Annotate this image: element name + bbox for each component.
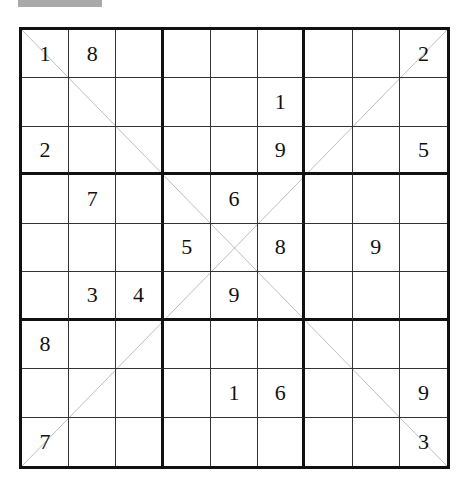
sudoku-cell-r7c5[interactable] — [211, 321, 258, 369]
sudoku-cell-r3c7[interactable] — [305, 127, 352, 175]
sudoku-cell-r5c7[interactable] — [305, 224, 352, 272]
sudoku-cell-r4c6[interactable] — [258, 175, 305, 223]
sudoku-cell-r7c9[interactable] — [400, 321, 447, 369]
sudoku-board: 182129576589349816973 — [19, 27, 450, 469]
sudoku-cell-r1c6[interactable] — [258, 30, 305, 78]
sudoku-cell-r8c8[interactable] — [353, 369, 400, 417]
sudoku-cell-r8c2[interactable] — [69, 369, 116, 417]
sudoku-cell-r8c6[interactable]: 6 — [258, 369, 305, 417]
sudoku-cell-r1c2[interactable]: 8 — [69, 30, 116, 78]
sudoku-cell-r7c3[interactable] — [116, 321, 163, 369]
sudoku-cell-r2c4[interactable] — [164, 78, 211, 126]
sudoku-cell-r9c8[interactable] — [353, 418, 400, 466]
sudoku-cell-r5c3[interactable] — [116, 224, 163, 272]
sudoku-cell-r6c8[interactable] — [353, 272, 400, 320]
sudoku-cell-r3c9[interactable]: 5 — [400, 127, 447, 175]
sudoku-cell-r8c4[interactable] — [164, 369, 211, 417]
sudoku-cell-r4c1[interactable] — [22, 175, 69, 223]
sudoku-cell-r1c3[interactable] — [116, 30, 163, 78]
sudoku-cell-r6c7[interactable] — [305, 272, 352, 320]
sudoku-cell-r4c7[interactable] — [305, 175, 352, 223]
sudoku-cell-r1c5[interactable] — [211, 30, 258, 78]
sudoku-cell-r7c1[interactable]: 8 — [22, 321, 69, 369]
sudoku-grid: 182129576589349816973 — [22, 30, 447, 466]
sudoku-cell-r6c5[interactable]: 9 — [211, 272, 258, 320]
sudoku-cell-r8c5[interactable]: 1 — [211, 369, 258, 417]
sudoku-cell-r2c7[interactable] — [305, 78, 352, 126]
sudoku-cell-r9c7[interactable] — [305, 418, 352, 466]
sudoku-cell-r6c9[interactable] — [400, 272, 447, 320]
sudoku-cell-r9c9[interactable]: 3 — [400, 418, 447, 466]
sudoku-cell-r5c9[interactable] — [400, 224, 447, 272]
sudoku-cell-r5c8[interactable]: 9 — [353, 224, 400, 272]
sudoku-cell-r3c1[interactable]: 2 — [22, 127, 69, 175]
sudoku-cell-r7c7[interactable] — [305, 321, 352, 369]
sudoku-cell-r2c6[interactable]: 1 — [258, 78, 305, 126]
sudoku-cell-r2c3[interactable] — [116, 78, 163, 126]
sudoku-cell-r5c4[interactable]: 5 — [164, 224, 211, 272]
sudoku-cell-r4c9[interactable] — [400, 175, 447, 223]
sudoku-cell-r3c6[interactable]: 9 — [258, 127, 305, 175]
sudoku-cell-r5c6[interactable]: 8 — [258, 224, 305, 272]
sudoku-cell-r7c2[interactable] — [69, 321, 116, 369]
sudoku-cell-r2c8[interactable] — [353, 78, 400, 126]
sudoku-cell-r3c5[interactable] — [211, 127, 258, 175]
sudoku-cell-r4c8[interactable] — [353, 175, 400, 223]
sudoku-cell-r9c1[interactable]: 7 — [22, 418, 69, 466]
sudoku-cell-r6c4[interactable] — [164, 272, 211, 320]
sudoku-cell-r2c2[interactable] — [69, 78, 116, 126]
sudoku-cell-r8c1[interactable] — [22, 369, 69, 417]
sudoku-cell-r7c6[interactable] — [258, 321, 305, 369]
sudoku-cell-r9c4[interactable] — [164, 418, 211, 466]
sudoku-cell-r3c3[interactable] — [116, 127, 163, 175]
sudoku-cell-r9c3[interactable] — [116, 418, 163, 466]
sudoku-cell-r2c9[interactable] — [400, 78, 447, 126]
sudoku-cell-r5c5[interactable] — [211, 224, 258, 272]
sudoku-cell-r9c2[interactable] — [69, 418, 116, 466]
header-label-bar — [18, 0, 102, 7]
sudoku-cell-r8c9[interactable]: 9 — [400, 369, 447, 417]
sudoku-cell-r1c9[interactable]: 2 — [400, 30, 447, 78]
sudoku-cell-r9c6[interactable] — [258, 418, 305, 466]
sudoku-cell-r2c1[interactable] — [22, 78, 69, 126]
sudoku-cell-r7c4[interactable] — [164, 321, 211, 369]
sudoku-cell-r1c1[interactable]: 1 — [22, 30, 69, 78]
sudoku-cell-r8c3[interactable] — [116, 369, 163, 417]
sudoku-cell-r5c1[interactable] — [22, 224, 69, 272]
sudoku-cell-r8c7[interactable] — [305, 369, 352, 417]
sudoku-cell-r6c2[interactable]: 3 — [69, 272, 116, 320]
sudoku-cell-r1c7[interactable] — [305, 30, 352, 78]
sudoku-cell-r7c8[interactable] — [353, 321, 400, 369]
sudoku-cell-r4c4[interactable] — [164, 175, 211, 223]
sudoku-cell-r4c2[interactable]: 7 — [69, 175, 116, 223]
sudoku-cell-r5c2[interactable] — [69, 224, 116, 272]
sudoku-cell-r1c4[interactable] — [164, 30, 211, 78]
sudoku-cell-r6c1[interactable] — [22, 272, 69, 320]
sudoku-cell-r6c6[interactable] — [258, 272, 305, 320]
sudoku-cell-r6c3[interactable]: 4 — [116, 272, 163, 320]
sudoku-cell-r2c5[interactable] — [211, 78, 258, 126]
sudoku-cell-r3c8[interactable] — [353, 127, 400, 175]
sudoku-cell-r4c3[interactable] — [116, 175, 163, 223]
sudoku-cell-r1c8[interactable] — [353, 30, 400, 78]
sudoku-cell-r3c4[interactable] — [164, 127, 211, 175]
sudoku-cell-r9c5[interactable] — [211, 418, 258, 466]
sudoku-cell-r3c2[interactable] — [69, 127, 116, 175]
sudoku-cell-r4c5[interactable]: 6 — [211, 175, 258, 223]
